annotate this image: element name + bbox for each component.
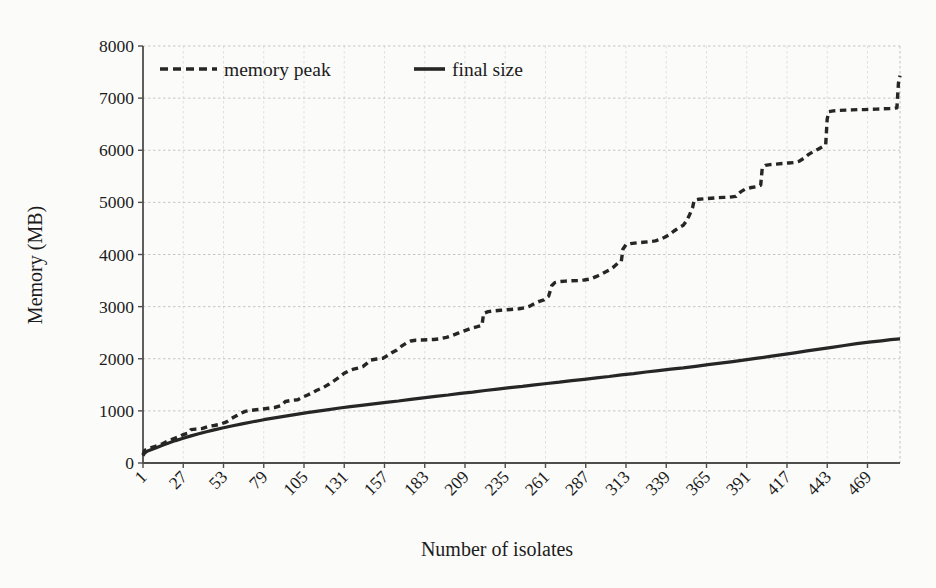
- y-tick-label: 3000: [99, 297, 134, 317]
- data-series: [143, 76, 900, 456]
- x-axis-title: Number of isolates: [421, 538, 573, 560]
- final-size-line: [143, 339, 900, 456]
- gridlines: [143, 46, 900, 463]
- y-tick-label: 1000: [99, 401, 134, 421]
- x-tick-label: 53: [205, 467, 232, 494]
- x-tick-label: 209: [440, 467, 473, 500]
- x-tick-label: 261: [521, 467, 554, 500]
- x-tick-label: 27: [165, 467, 192, 494]
- x-tick-label: 79: [245, 467, 272, 494]
- legend-label-final-size: final size: [452, 59, 523, 80]
- chart-canvas: 0100020003000400050006000700080001275379…: [0, 0, 936, 588]
- x-tick-label: 339: [641, 467, 674, 500]
- memory-usage-chart: 0100020003000400050006000700080001275379…: [0, 0, 936, 588]
- x-tick-label: 417: [762, 467, 795, 500]
- x-tick-label: 287: [561, 467, 594, 500]
- x-tick-label: 131: [319, 467, 352, 500]
- x-tick-label: 1: [130, 467, 150, 487]
- memory-peak-line: [143, 76, 900, 455]
- x-tick-label: 365: [682, 467, 715, 500]
- y-tick-label: 8000: [99, 36, 134, 56]
- y-tick-label: 7000: [99, 88, 134, 108]
- y-tick-label: 4000: [99, 245, 134, 265]
- x-tick-label: 313: [601, 467, 634, 500]
- legend: memory peak final size: [160, 59, 523, 80]
- y-axis-title: Memory (MB): [24, 206, 47, 324]
- x-tick-label: 157: [360, 467, 393, 500]
- y-tick-label: 5000: [99, 192, 134, 212]
- x-tick-label: 469: [843, 467, 876, 500]
- x-tick-label: 183: [400, 467, 433, 500]
- x-tick-label: 443: [802, 467, 835, 500]
- x-tick-label: 105: [279, 467, 312, 500]
- axes: [138, 46, 900, 468]
- y-tick-label: 2000: [99, 349, 134, 369]
- y-tick-label: 6000: [99, 140, 134, 160]
- x-tick-label: 235: [480, 467, 513, 500]
- legend-label-memory-peak: memory peak: [224, 59, 331, 80]
- x-tick-label: 391: [722, 467, 755, 500]
